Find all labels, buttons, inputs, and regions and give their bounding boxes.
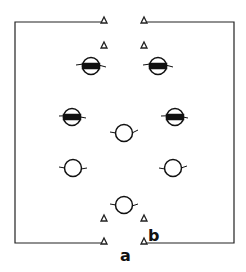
shaded-players — [59, 58, 188, 126]
shaded-player-icon — [59, 109, 86, 126]
cone-icon — [141, 42, 147, 48]
open-player-icon — [59, 160, 87, 177]
label-b: b — [148, 228, 159, 244]
cone-icon — [101, 238, 107, 244]
open-players — [59, 125, 187, 214]
shaded-player-icon — [76, 58, 106, 75]
cone-icon — [101, 215, 107, 221]
open-player-icon — [110, 197, 138, 214]
shaded-player-icon — [161, 109, 188, 126]
cone-icon — [141, 238, 147, 244]
open-player-icon — [159, 160, 187, 177]
open-player-icon — [110, 125, 138, 142]
cone-icon — [141, 215, 147, 221]
cone-icon — [101, 17, 107, 23]
shaded-player-icon — [143, 58, 173, 75]
drill-diagram — [0, 0, 246, 272]
label-a: a — [120, 248, 131, 264]
cone-icon — [141, 17, 147, 23]
cone-icon — [101, 42, 107, 48]
